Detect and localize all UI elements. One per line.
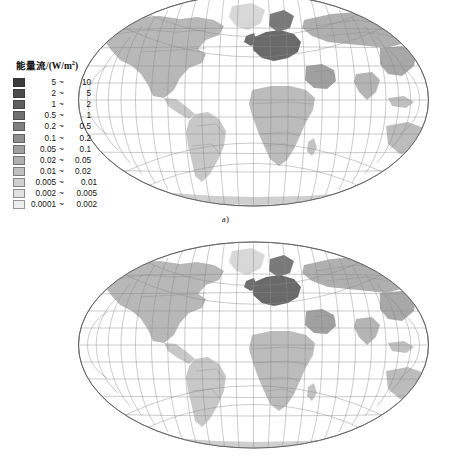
legend-range-tilde: ~ <box>56 189 67 198</box>
legend-range-low: 0.005 <box>29 178 56 187</box>
legend-title-close-a: ) <box>75 61 78 71</box>
legend-row: 5~10 <box>13 77 97 88</box>
legend-range-tilde: ~ <box>56 167 67 176</box>
legend-label: 0.5~1 <box>29 111 91 120</box>
legend-label: 2~5 <box>29 89 91 98</box>
legend-title-unit-a: /(W/m <box>46 61 72 71</box>
legend-range-tilde: ~ <box>56 134 67 143</box>
legend-row: 0.002~0.005 <box>13 188 97 199</box>
legend-a: 能量流/(W/m2) 5~102~51~20.5~10.2~0.50.1~0.2… <box>13 58 97 210</box>
legend-row: 0.01~0.02 <box>13 166 97 177</box>
legend-swatch <box>13 89 25 98</box>
legend-title-cn-a: 能量流 <box>16 61 46 71</box>
legend-range-tilde: ~ <box>56 156 67 165</box>
legend-range-low: 0.5 <box>29 111 56 120</box>
panel-caption-a: a) <box>0 214 451 224</box>
legend-range-low: 0.05 <box>29 145 56 154</box>
legend-swatch <box>13 78 25 87</box>
legend-row: 0.2~0.5 <box>13 121 97 132</box>
legend-range-low: 0.1 <box>29 134 56 143</box>
legend-row: 0.1~0.2 <box>13 132 97 143</box>
figure-panel-b: 能量流/(W/m2) 5~102~51~20.5~10.2~0.50.1~0.2… <box>0 232 451 466</box>
legend-range-tilde: ~ <box>56 178 67 187</box>
legend-label: 0.01~0.02 <box>29 167 91 176</box>
legend-range-high: 0.5 <box>67 122 91 131</box>
legend-row: 0.0001~0.002 <box>13 199 97 210</box>
legend-range-high: 0.2 <box>67 134 91 143</box>
legend-row: 0.005~0.01 <box>13 177 97 188</box>
legend-range-low: 2 <box>29 89 56 98</box>
world-map-a <box>56 0 451 214</box>
legend-range-high: 1 <box>67 111 91 120</box>
legend-title-a: 能量流/(W/m2) <box>16 58 97 72</box>
world-map-b-svg <box>56 234 451 456</box>
legend-range-high: 10 <box>67 78 91 87</box>
legend-row: 0.5~1 <box>13 110 97 121</box>
world-map-a-svg <box>56 0 451 214</box>
legend-swatch <box>13 122 25 131</box>
legend-range-tilde: ~ <box>56 100 67 109</box>
legend-range-low: 5 <box>29 78 56 87</box>
legend-range-tilde: ~ <box>56 111 67 120</box>
legend-row: 0.02~0.05 <box>13 155 97 166</box>
legend-rows-a: 5~102~51~20.5~10.2~0.50.1~0.20.05~0.10.0… <box>13 77 97 210</box>
legend-range-high: 0.02 <box>67 167 91 176</box>
legend-range-tilde: ~ <box>56 78 67 87</box>
legend-range-low: 0.0001 <box>29 200 56 209</box>
figure-panel-a: 能量流/(W/m2) 5~102~51~20.5~10.2~0.50.1~0.2… <box>0 0 451 232</box>
legend-range-low: 1 <box>29 100 56 109</box>
legend-row: 1~2 <box>13 99 97 110</box>
legend-range-high: 0.01 <box>67 178 97 187</box>
legend-range-tilde: ~ <box>56 122 67 131</box>
legend-swatch <box>13 145 25 154</box>
legend-swatch <box>13 167 25 176</box>
world-map-b <box>56 234 451 456</box>
legend-swatch <box>13 111 25 120</box>
legend-range-low: 0.2 <box>29 122 56 131</box>
legend-swatch <box>13 156 25 165</box>
legend-range-tilde: ~ <box>56 145 67 154</box>
legend-range-high: 0.05 <box>67 156 91 165</box>
legend-range-high: 2 <box>67 100 91 109</box>
legend-range-low: 0.002 <box>29 189 56 198</box>
legend-range-low: 0.01 <box>29 167 56 176</box>
legend-range-tilde: ~ <box>56 200 67 209</box>
legend-label: 0.02~0.05 <box>29 156 91 165</box>
legend-row: 2~5 <box>13 88 97 99</box>
legend-label: 0.05~0.1 <box>29 145 91 154</box>
legend-swatch <box>13 200 25 209</box>
figure-root: 能量流/(W/m2) 5~102~51~20.5~10.2~0.50.1~0.2… <box>0 0 451 466</box>
legend-label: 1~2 <box>29 100 91 109</box>
legend-range-high: 5 <box>67 89 91 98</box>
legend-swatch <box>13 134 25 143</box>
legend-row: 0.05~0.1 <box>13 144 97 155</box>
legend-range-high: 0.002 <box>67 200 97 209</box>
legend-swatch <box>13 178 25 187</box>
legend-label: 0.2~0.5 <box>29 122 91 131</box>
legend-swatch <box>13 100 25 109</box>
legend-label: 0.005~0.01 <box>29 178 97 187</box>
legend-range-high: 0.1 <box>67 145 91 154</box>
legend-range-high: 0.005 <box>67 189 97 198</box>
legend-range-low: 0.02 <box>29 156 56 165</box>
legend-swatch <box>13 189 25 198</box>
legend-label: 5~10 <box>29 78 91 87</box>
legend-label: 0.0001~0.002 <box>29 200 97 209</box>
legend-range-tilde: ~ <box>56 89 67 98</box>
legend-label: 0.002~0.005 <box>29 189 97 198</box>
legend-label: 0.1~0.2 <box>29 134 91 143</box>
